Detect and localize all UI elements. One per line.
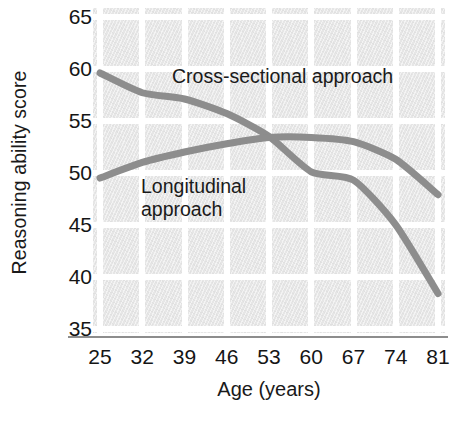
y-tick-label: 65 (46, 6, 92, 27)
x-tick-label: 39 (163, 344, 207, 369)
plot-area: Cross-sectional approach Longitudinal ap… (93, 8, 445, 333)
chart-figure: Reasoning ability score 65605550454035 C… (0, 0, 469, 425)
x-tick-label: 25 (78, 344, 122, 369)
x-tick-label: 81 (416, 344, 460, 369)
x-tick-label: 60 (289, 344, 333, 369)
x-axis-line (68, 336, 448, 338)
y-tick-label: 50 (46, 162, 92, 183)
y-tick-label: 60 (46, 58, 92, 79)
y-tick-label: 40 (46, 266, 92, 287)
x-tick-label: 32 (120, 344, 164, 369)
y-axis-title-container: Reasoning ability score (0, 0, 40, 345)
x-axis-title: Age (years) (93, 378, 445, 401)
x-tick-label: 46 (205, 344, 249, 369)
series-label-cross-sectional: Cross-sectional approach (172, 65, 393, 88)
x-tick-label: 67 (332, 344, 376, 369)
series-label-longitudinal: Longitudinal approach (141, 175, 246, 221)
y-axis-title: Reasoning ability score (9, 71, 32, 275)
x-tick-label: 53 (247, 344, 291, 369)
series-curves (93, 8, 445, 333)
x-tick-label: 74 (374, 344, 418, 369)
x-axis-tick-labels: 253239465360677481 (93, 344, 445, 374)
y-axis-tick-labels: 65605550454035 (46, 0, 92, 345)
y-tick-label: 45 (46, 214, 92, 235)
y-tick-label: 55 (46, 110, 92, 131)
